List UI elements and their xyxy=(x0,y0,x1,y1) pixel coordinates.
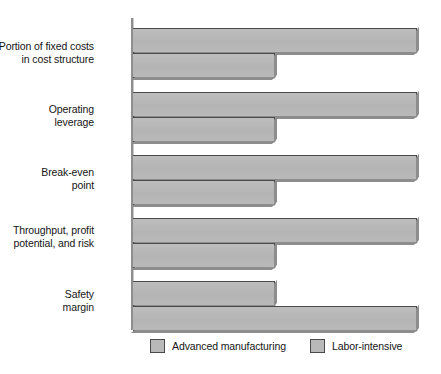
category-label-break-even-point: Break-even point xyxy=(0,166,94,191)
bar-advanced-manufacturing-portion-of-fixed-costs xyxy=(133,28,417,53)
category-label-portion-of-fixed-costs: Portion of fixed costs in cost structure xyxy=(0,40,94,65)
bar-labor-intensive-throughput-profit-potential-risk xyxy=(133,243,275,268)
bar-advanced-manufacturing-safety-margin xyxy=(133,281,275,306)
legend-item-advanced-manufacturing: Advanced manufacturing xyxy=(150,339,286,353)
bar-labor-intensive-safety-margin xyxy=(133,306,417,331)
chart-legend: Advanced manufacturing Labor-intensive xyxy=(131,339,431,359)
legend-swatch-advanced-manufacturing xyxy=(150,339,165,353)
legend-label-advanced-manufacturing: Advanced manufacturing xyxy=(172,340,286,352)
bar-chart: Portion of fixed costs in cost structure… xyxy=(0,0,441,374)
bar-labor-intensive-operating-leverage xyxy=(133,117,275,142)
legend-label-labor-intensive: Labor-intensive xyxy=(332,340,402,352)
plot-area xyxy=(131,18,431,330)
category-label-throughput-profit-potential-risk: Throughput, profit potential, and risk xyxy=(0,224,94,249)
bar-advanced-manufacturing-break-even-point xyxy=(133,155,417,180)
legend-swatch-labor-intensive xyxy=(310,339,325,353)
bar-labor-intensive-break-even-point xyxy=(133,180,275,205)
bar-advanced-manufacturing-throughput-profit-potential-risk xyxy=(133,218,417,243)
legend-item-labor-intensive: Labor-intensive xyxy=(310,339,402,353)
bar-advanced-manufacturing-operating-leverage xyxy=(133,92,417,117)
bar-labor-intensive-portion-of-fixed-costs xyxy=(133,53,275,78)
category-label-safety-margin: Safety margin xyxy=(0,288,94,313)
category-label-operating-leverage: Operating leverage xyxy=(0,103,94,128)
